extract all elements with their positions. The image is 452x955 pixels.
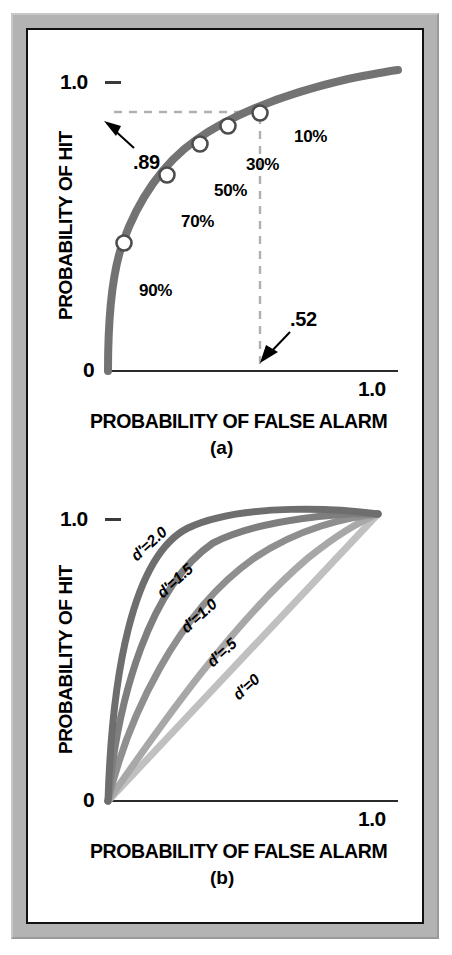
roc-point-label-90: 90% xyxy=(139,282,172,299)
roc-point-10 xyxy=(253,106,268,121)
chart-panel-a: 1.0 0 1.0 PROBABILITY OF HIT PROBABILITY… xyxy=(28,30,422,476)
y-axis-title-b: PROBABILITY OF HIT xyxy=(56,565,75,754)
false-alarm-arrow xyxy=(260,332,290,363)
y-tick-top-label-b: 1.0 xyxy=(60,508,88,529)
y-tick-bottom-label-a: 0 xyxy=(83,359,94,380)
figure-inner-panel: 1.0 0 1.0 PROBABILITY OF HIT PROBABILITY… xyxy=(26,28,424,924)
x-tick-right-label-a: 1.0 xyxy=(358,378,386,399)
y-tick-top-label-a: 1.0 xyxy=(60,71,88,92)
panel-caption-a: (a) xyxy=(210,438,233,457)
y-tick-bottom-label-b: 0 xyxy=(83,789,94,810)
x-axis-title-b: PROBABILITY OF FALSE ALARM xyxy=(90,842,387,862)
false-alarm-value-label: .52 xyxy=(290,309,317,329)
roc-curve-dprime-0 xyxy=(108,514,378,801)
roc-point-50 xyxy=(193,137,208,152)
x-axis-title-a: PROBABILITY OF FALSE ALARM xyxy=(90,412,387,432)
roc-point-70 xyxy=(160,168,175,183)
y-axis-title-a: PROBABILITY OF HIT xyxy=(56,131,75,320)
roc-point-label-70: 70% xyxy=(181,213,214,230)
y-tick-dash-a xyxy=(105,81,121,84)
hit-rate-value-label: .89 xyxy=(133,152,160,172)
figure-root: 1.0 0 1.0 PROBABILITY OF HIT PROBABILITY… xyxy=(0,0,452,955)
roc-point-label-30: 30% xyxy=(246,156,279,173)
roc-point-90 xyxy=(117,236,132,251)
panel-caption-b: (b) xyxy=(210,868,234,887)
roc-point-label-50: 50% xyxy=(214,182,247,199)
y-tick-dash-b xyxy=(105,518,121,521)
roc-point-30 xyxy=(221,119,236,134)
x-tick-right-label-b: 1.0 xyxy=(358,808,386,829)
hit-rate-arrow xyxy=(104,121,134,148)
chart-panel-b: 1.0 0 1.0 PROBABILITY OF HIT PROBABILITY… xyxy=(28,476,422,922)
roc-point-label-10: 10% xyxy=(294,128,327,145)
